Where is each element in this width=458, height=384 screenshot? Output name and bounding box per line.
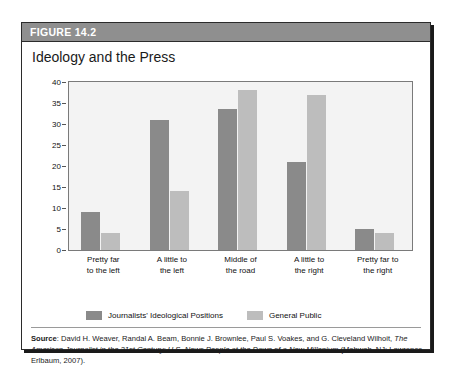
y-axis-tick-label: 20 [52,162,61,171]
y-axis-tick-mark [62,229,66,230]
y-axis-tick-mark [62,103,66,104]
source-divider [31,327,421,328]
bar [238,90,257,250]
figure-shadow-right [431,25,434,353]
bar-group [206,82,275,250]
bar-chart: 0510152025303540 Pretty farto the leftA … [32,73,422,285]
bars-layer [69,82,412,250]
x-axis: Pretty farto the leftA little tothe left… [69,255,412,283]
y-axis-tick-mark [62,124,66,125]
bar [150,120,169,250]
y-axis-tick-label: 25 [52,141,61,150]
x-axis-category-line: Pretty far to [331,255,424,266]
y-axis-tick-label: 5 [57,225,61,234]
figure-page: FIGURE 14.2 Ideology and the Press 05101… [0,0,458,384]
bar [307,95,326,250]
y-axis-tick-label: 40 [52,78,61,87]
legend-swatch [247,311,263,320]
y-axis-tick-label: 35 [52,99,61,108]
bar-group [69,82,138,250]
y-axis-tick-mark [62,145,66,146]
legend-item: Journalists' Ideological Positions [86,311,223,320]
chart-legend: Journalists' Ideological PositionsGenera… [86,311,338,320]
y-axis-tick-label: 15 [52,183,61,192]
legend-item: General Public [247,311,321,320]
figure-number-banner: FIGURE 14.2 [22,23,430,42]
bar [355,229,374,250]
figure-box: FIGURE 14.2 Ideology and the Press 05101… [21,22,431,350]
y-axis-tick-mark [62,187,66,188]
bar [170,191,189,250]
y-axis-tick-mark [62,208,66,209]
bar-group [343,82,412,250]
source-citation: Source: David H. Weaver, Randal A. Beam,… [31,333,423,366]
figure-title: Ideology and the Press [32,49,175,65]
legend-label: General Public [269,311,321,320]
legend-swatch [86,311,102,320]
bar-group [275,82,344,250]
source-label: Source [31,334,57,343]
y-axis-tick-mark [62,250,66,251]
y-axis-tick-label: 30 [52,120,61,129]
legend-label: Journalists' Ideological Positions [108,311,223,320]
y-axis-tick-label: 10 [52,204,61,213]
bar [375,233,394,250]
figure-number-label: FIGURE 14.2 [30,26,96,38]
y-axis-tick-mark [62,166,66,167]
y-axis: 0510152025303540 [32,81,66,251]
bar [81,212,100,250]
bar [101,233,120,250]
bar-group [138,82,207,250]
x-axis-category-label: Pretty far tothe right [331,255,424,276]
y-axis-tick-mark [62,82,66,83]
source-authors: David H. Weaver, Randal A. Beam, Bonnie … [61,334,394,343]
y-axis-tick-label: 0 [57,246,61,255]
x-axis-category-line: the right [331,266,424,277]
bar [287,162,306,250]
bar [218,109,237,250]
